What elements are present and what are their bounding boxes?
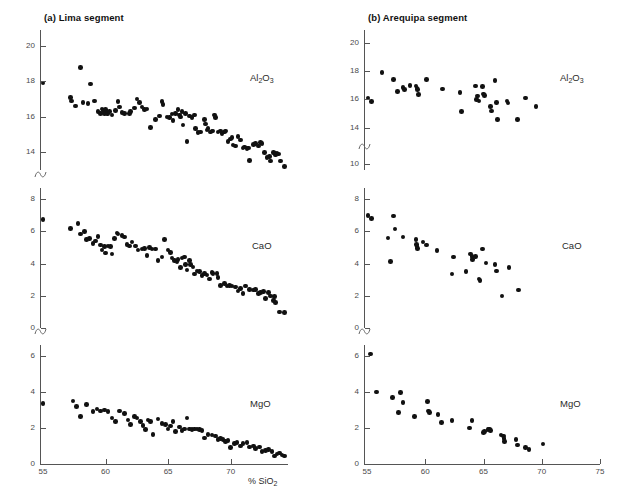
data-point	[200, 428, 205, 433]
x-tick-label: 70	[221, 467, 241, 476]
panel-b-label-cao: CaO	[562, 240, 582, 251]
data-point	[541, 442, 546, 447]
x-tick	[106, 459, 107, 464]
y-tick-label: 16	[19, 112, 35, 121]
data-point	[450, 418, 455, 423]
y-tick-label: 6	[343, 351, 359, 360]
data-point	[412, 414, 417, 419]
panel-a-label-mgo: MgO	[250, 398, 271, 409]
y-tick	[41, 464, 46, 465]
y-tick	[41, 46, 46, 47]
y-tick	[365, 231, 370, 232]
data-point	[171, 419, 176, 424]
y-tick-label: 2	[19, 423, 35, 432]
y-tick	[41, 428, 46, 429]
data-point	[502, 439, 507, 444]
panel-b-label-al2o3: Al2O3	[560, 72, 584, 83]
data-point	[374, 390, 379, 395]
x-tick-label: 65	[158, 467, 178, 476]
y-tick	[365, 464, 370, 465]
data-point	[270, 449, 275, 454]
y-tick	[41, 328, 46, 329]
x-tick-label: 55	[33, 467, 53, 476]
data-point	[436, 412, 441, 417]
panel-a-label-al2o3: Al2O3	[250, 72, 274, 83]
y-tick	[365, 356, 370, 357]
data-point	[514, 437, 519, 442]
y-tick-label: 6	[19, 351, 35, 360]
y-tick-label: 2	[343, 291, 359, 300]
data-point	[41, 401, 46, 406]
data-point	[425, 399, 430, 404]
y-tick	[365, 99, 370, 100]
y-tick-label: 20	[19, 41, 35, 50]
y-tick-label: 8	[343, 194, 359, 203]
data-point	[113, 419, 118, 424]
y-tick	[365, 296, 370, 297]
data-point	[439, 420, 444, 425]
y-tick-label: 4	[343, 387, 359, 396]
data-point	[470, 418, 475, 423]
y-tick	[41, 117, 46, 118]
data-point	[106, 409, 111, 414]
y-tick-label: 2	[343, 423, 359, 432]
y-tick	[41, 231, 46, 232]
x-tick-label: 60	[415, 467, 435, 476]
y-tick-label: 14	[343, 123, 359, 132]
data-point	[427, 410, 432, 415]
data-point	[390, 395, 395, 400]
data-point	[168, 424, 173, 429]
x-tick-label: 75	[590, 467, 610, 476]
y-tick	[41, 356, 46, 357]
data-point	[74, 404, 79, 409]
data-point	[527, 447, 532, 452]
y-tick	[365, 128, 370, 129]
panel-a-label-cao: CaO	[252, 240, 272, 251]
data-point	[515, 443, 520, 448]
y-tick-label: 18	[19, 76, 35, 85]
data-point	[245, 440, 250, 445]
x-tick	[168, 459, 169, 464]
y-tick	[41, 152, 46, 153]
data-point	[117, 409, 122, 414]
data-point	[488, 428, 493, 433]
y-tick	[365, 71, 370, 72]
y-tick	[365, 428, 370, 429]
y-tick	[365, 264, 370, 265]
x-tick	[425, 459, 426, 464]
y-tick	[41, 296, 46, 297]
data-point	[143, 427, 148, 432]
y-tick-label: 0	[343, 323, 359, 332]
y-tick	[365, 164, 370, 165]
y-tick	[365, 43, 370, 44]
y-tick-label: 16	[343, 94, 359, 103]
data-point	[78, 414, 83, 419]
data-point	[226, 438, 231, 443]
y-tick-label: 4	[19, 387, 35, 396]
y-tick-label: 2	[19, 291, 35, 300]
panel-lima-segment: (a) Lima segment Al2O3 CaO MgO 141618200…	[0, 0, 320, 497]
y-tick	[365, 328, 370, 329]
x-axis-title: % SiO2	[248, 476, 277, 486]
y-tick-label: 20	[343, 38, 359, 47]
data-point	[401, 400, 406, 405]
y-tick	[41, 81, 46, 82]
figure-root: (a) Lima segment Al2O3 CaO MgO 141618200…	[0, 0, 625, 497]
y-tick-label: 0	[19, 323, 35, 332]
x-tick	[484, 459, 485, 464]
y-tick-label: 6	[343, 226, 359, 235]
x-tick-label: 60	[96, 467, 116, 476]
data-point	[182, 427, 187, 432]
data-point	[228, 445, 233, 450]
data-point	[148, 419, 153, 424]
data-point	[84, 402, 89, 407]
y-tick-label: 10	[343, 159, 359, 168]
y-tick-label: 4	[19, 259, 35, 268]
data-point	[185, 416, 190, 421]
y-tick	[365, 392, 370, 393]
x-tick-label: 55	[357, 467, 377, 476]
data-point	[122, 411, 127, 416]
x-tick	[231, 459, 232, 464]
y-tick	[41, 392, 46, 393]
y-tick	[41, 264, 46, 265]
